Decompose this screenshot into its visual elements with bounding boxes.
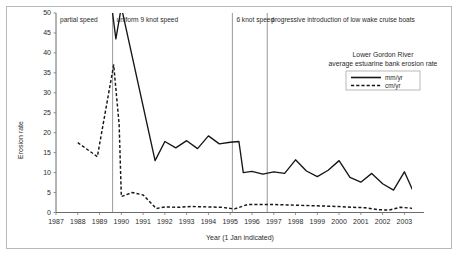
regime-label: 6 knot speed (236, 16, 274, 24)
x-tick-label: 2000 (331, 218, 347, 225)
series-line-mm-per-yr (112, 5, 416, 196)
legend-title: Lower Gordon River (353, 51, 415, 58)
legend-label-mm-per-yr: mm/yr (385, 74, 404, 82)
y-tick-label: 40 (43, 49, 51, 56)
y-tick-label: 0 (47, 209, 51, 216)
x-tick-label: 2003 (397, 218, 413, 225)
x-tick-label: 1995 (222, 218, 238, 225)
x-axis-title: Year (1 Jan indicated) (206, 234, 274, 242)
y-tick-label: 30 (43, 89, 51, 96)
x-tick-label: 1997 (266, 218, 282, 225)
x-tick-label: 1994 (201, 218, 217, 225)
x-tick-label: 1993 (179, 218, 195, 225)
y-axis-title: Erosion rate (17, 121, 24, 159)
y-tick-label: 10 (43, 169, 51, 176)
x-tick-label: 2001 (353, 218, 369, 225)
x-tick-label: 1987 (48, 218, 64, 225)
y-tick-label: 20 (43, 129, 51, 136)
regime-label: progressive introduction of low wake cru… (271, 16, 415, 24)
y-tick-label: 35 (43, 69, 51, 76)
legend-box (346, 71, 420, 90)
legend-subtitle: average estuarine bank erosion rate (329, 60, 438, 68)
regime-label: partial speed (60, 16, 98, 24)
x-tick-label: 1991 (135, 218, 151, 225)
legend-label-cm-per-yr: cm/yr (385, 82, 401, 90)
x-tick-label: 2002 (375, 218, 391, 225)
x-axis-tick-labels: 1987198819891990199119921993199419951996… (48, 218, 412, 225)
y-tick-label: 50 (43, 9, 51, 16)
y-tick-label: 15 (43, 149, 51, 156)
x-tick-label: 1992 (157, 218, 173, 225)
y-tick-label: 45 (43, 29, 51, 36)
chart-legend: Lower Gordon River average estuarine ban… (329, 51, 438, 90)
x-tick-label: 1998 (288, 218, 304, 225)
regime-divider-lines (113, 13, 268, 213)
y-axis-tick-labels: 05101520253035404550 (43, 9, 51, 216)
x-tick-label: 1989 (92, 218, 108, 225)
regime-label: uniform 9 knot speed (117, 16, 179, 24)
y-tick-label: 25 (43, 109, 51, 116)
x-tick-label: 1999 (310, 218, 326, 225)
x-tick-label: 1990 (114, 218, 130, 225)
figure-container: 05101520253035404550 1987198819891990199… (0, 0, 458, 267)
x-tick-label: 1996 (244, 218, 260, 225)
y-tick-label: 5 (47, 189, 51, 196)
erosion-rate-chart: 05101520253035404550 1987198819891990199… (0, 0, 458, 267)
x-tick-label: 1988 (70, 218, 86, 225)
